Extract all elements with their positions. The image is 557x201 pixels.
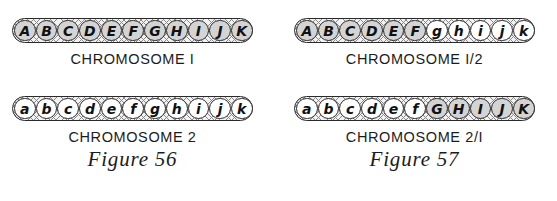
gene-bead: b (36, 98, 58, 120)
gene-bead: E (101, 20, 123, 42)
gene-bead: j (209, 98, 231, 120)
gene-bead: G (426, 98, 448, 120)
figure-caption: Figure 57 (294, 147, 535, 172)
gene-bead: C (57, 20, 79, 42)
figure-caption: Figure 56 (12, 147, 253, 172)
gene-bead: k (513, 20, 535, 42)
gene-bead: b (318, 98, 340, 120)
gene-bead: B (318, 20, 340, 42)
chromosome-bar: abcdefghijk (12, 96, 253, 121)
gene-bead: d (79, 98, 101, 120)
gene-bead: I (188, 20, 210, 42)
gene-bead: e (383, 98, 405, 120)
gene-bead: i (188, 98, 210, 120)
chromosome-bar: abcdefGHIJK (294, 96, 535, 121)
gene-bead: c (339, 98, 361, 120)
chromosome-label: CHROMOSOME I/2 (294, 51, 535, 67)
gene-bead: H (448, 98, 470, 120)
gene-bead: G (144, 20, 166, 42)
gene-bead: I (470, 98, 492, 120)
gene-bead: E (383, 20, 405, 42)
chromosome-label: CHROMOSOME 2/I (294, 129, 535, 145)
chromosome-label: CHROMOSOME I (12, 51, 253, 67)
gene-bead: F (122, 20, 144, 42)
gene-bead: D (361, 20, 383, 42)
gene-bead: e (101, 98, 123, 120)
gene-bead: k (231, 98, 253, 120)
gene-bead: h (166, 98, 188, 120)
gene-bead: f (404, 98, 426, 120)
gene-bead: J (491, 98, 513, 120)
gene-bead: K (231, 20, 253, 42)
gene-bead: i (470, 20, 492, 42)
gene-bead: J (209, 20, 231, 42)
gene-bead: h (448, 20, 470, 42)
gene-bead: d (361, 98, 383, 120)
gene-bead: B (36, 20, 58, 42)
chromosome-bar: ABCDEFghijk (294, 18, 535, 43)
chromosome-bar: ABCDEFGHIJK (12, 18, 253, 43)
gene-bead: K (513, 98, 535, 120)
gene-bead: a (296, 98, 318, 120)
figure-57: ABCDEFghijk CHROMOSOME I/2 abcdefGHIJK C… (282, 0, 552, 201)
gene-bead: H (166, 20, 188, 42)
figure-56: ABCDEFGHIJK CHROMOSOME I abcdefghijk CHR… (0, 0, 270, 201)
gene-bead: f (122, 98, 144, 120)
chromosome-label: CHROMOSOME 2 (12, 129, 253, 145)
gene-bead: A (296, 20, 318, 42)
gene-bead: a (14, 98, 36, 120)
gene-bead: F (404, 20, 426, 42)
gene-bead: g (426, 20, 448, 42)
gene-bead: g (144, 98, 166, 120)
gene-bead: D (79, 20, 101, 42)
gene-bead: j (491, 20, 513, 42)
gene-bead: C (339, 20, 361, 42)
gene-bead: c (57, 98, 79, 120)
gene-bead: A (14, 20, 36, 42)
